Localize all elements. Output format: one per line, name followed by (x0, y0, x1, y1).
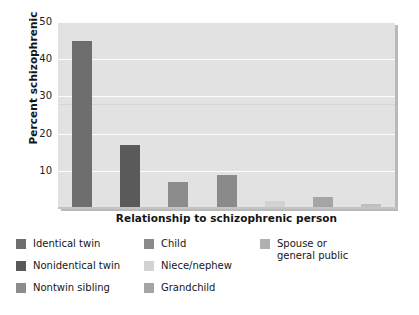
legend-item: Identical twin (16, 238, 120, 251)
legend-label: Nonidentical twin (33, 260, 120, 272)
x-axis-baseline (58, 207, 398, 209)
legend-label: Spouse or general public (277, 238, 348, 261)
legend-label: Identical twin (33, 238, 100, 250)
y-axis-ticks: 5040302010 (0, 0, 58, 232)
legend-swatch (16, 239, 26, 249)
legend-swatch (16, 283, 26, 293)
chart-legend: Identical twinNonidentical twinNontwin s… (16, 238, 406, 310)
bar (120, 145, 140, 208)
chart-area: Percent schizophrenic 5040302010 Relatio… (0, 0, 419, 232)
legend-swatch (144, 239, 154, 249)
legend-column: Identical twinNonidentical twinNontwin s… (16, 238, 120, 304)
legend-swatch (144, 283, 154, 293)
bar-series (58, 22, 395, 208)
bar (217, 175, 237, 208)
legend-swatch (16, 261, 26, 271)
legend-item: Nontwin sibling (16, 282, 120, 295)
y-tick-label: 40 (12, 54, 52, 64)
bar (168, 182, 188, 208)
y-tick-label: 10 (12, 166, 52, 176)
legend-label: Niece/nephew (161, 260, 232, 272)
legend-item: Spouse or general public (260, 238, 348, 251)
legend-swatch (260, 239, 270, 249)
legend-column: Spouse or general public (260, 238, 348, 260)
legend-item: Grandchild (144, 282, 232, 295)
legend-swatch (144, 261, 154, 271)
chart-figure: Percent schizophrenic 5040302010 Relatio… (0, 0, 419, 315)
legend-column: ChildNiece/nephewGrandchild (144, 238, 232, 304)
x-axis-title: Relationship to schizophrenic person (58, 212, 395, 224)
legend-item: Nonidentical twin (16, 260, 120, 273)
legend-label: Child (161, 238, 186, 250)
y-tick-label: 30 (12, 91, 52, 101)
bar (72, 41, 92, 208)
y-tick-label: 50 (12, 17, 52, 27)
legend-item: Child (144, 238, 232, 251)
y-tick-label: 20 (12, 129, 52, 139)
legend-label: Grandchild (161, 282, 215, 294)
legend-label: Nontwin sibling (33, 282, 110, 294)
legend-item: Niece/nephew (144, 260, 232, 273)
